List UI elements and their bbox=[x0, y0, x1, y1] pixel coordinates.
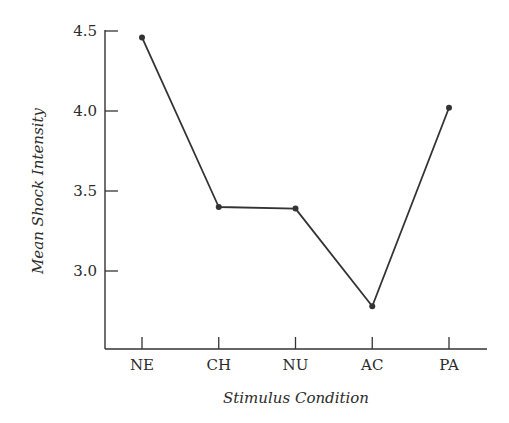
x-tick-label: NE bbox=[130, 356, 154, 374]
y-axis-title: Mean Shock Intensity bbox=[29, 107, 47, 275]
data-point-marker bbox=[369, 303, 375, 309]
x-tick-label: AC bbox=[360, 356, 383, 374]
data-series bbox=[139, 34, 452, 309]
x-tick-label: NU bbox=[283, 356, 309, 374]
line-chart: 3.03.54.04.5 NECHNUACPA Stimulus Conditi… bbox=[0, 0, 509, 423]
data-point-marker bbox=[293, 206, 299, 212]
y-tick-label: 4.0 bbox=[73, 102, 97, 120]
y-tick-label: 3.5 bbox=[73, 182, 97, 200]
x-axis-title: Stimulus Condition bbox=[223, 389, 369, 407]
data-point-marker bbox=[446, 105, 452, 111]
y-tick-label: 4.5 bbox=[73, 22, 97, 40]
axes bbox=[105, 30, 487, 349]
series-line bbox=[142, 37, 449, 306]
y-tick-label: 3.0 bbox=[73, 262, 97, 280]
x-tick-label: PA bbox=[439, 356, 459, 374]
x-tick-label: CH bbox=[206, 356, 231, 374]
x-ticks: NECHNUACPA bbox=[130, 337, 459, 374]
data-point-marker bbox=[139, 34, 145, 40]
data-point-marker bbox=[216, 204, 222, 210]
y-ticks: 3.03.54.04.5 bbox=[73, 22, 118, 280]
